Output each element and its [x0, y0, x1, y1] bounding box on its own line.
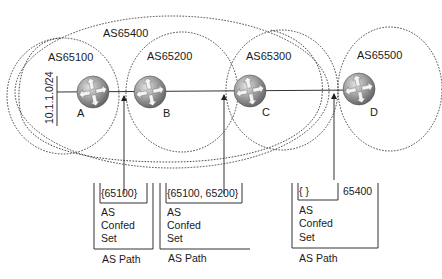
confed-label-3-line-2: Confed [299, 217, 333, 229]
confederation-label: AS65400 [103, 27, 148, 39]
network-label: 10.1.1.0/24 [43, 71, 55, 124]
router-label-b: B [163, 107, 170, 119]
confed-set-value-2: {65100, 65200} [167, 187, 239, 199]
confed-label-2-line-2: Confed [167, 219, 201, 231]
confed-set-value-3: { } [299, 185, 309, 197]
as65100-label: AS65100 [48, 51, 93, 63]
as-path-label-3: AS Path [299, 252, 338, 264]
router-icon-b[interactable] [134, 76, 166, 108]
as-path-box-1: {65100} AS Confed Set AS Path [94, 183, 153, 265]
router-icon-a[interactable] [77, 76, 109, 108]
as-path-label-1: AS Path [102, 253, 141, 265]
confed-label-3-line-3: Set [299, 231, 315, 243]
confed-label-2-line-3: Set [167, 232, 183, 244]
as-path-label-2: AS Path [168, 252, 207, 264]
as65500-label: AS65500 [357, 49, 402, 61]
router-label-a: A [77, 107, 85, 119]
as65300-label: AS65300 [246, 50, 291, 62]
confed-label-1-line-3: Set [101, 232, 117, 244]
as-sequence-value-3: 65400 [343, 185, 372, 197]
confed-set-value-1: {65100} [101, 187, 138, 199]
router-icon-d[interactable] [343, 73, 375, 105]
router-icon-c[interactable] [234, 75, 266, 107]
as-path-box-3: { } 65400 AS Confed Set AS Path [292, 183, 378, 264]
router-label-c: C [262, 106, 270, 118]
as65200-label: AS65200 [147, 50, 192, 62]
confed-label-1-line-2: Confed [101, 219, 135, 231]
router-label-d: D [370, 106, 378, 118]
confed-label-3-line-1: AS [299, 204, 313, 216]
as-path-box-2: {65100, 65200} AS Confed Set AS Path [160, 183, 250, 264]
confed-label-2-line-1: AS [167, 206, 181, 218]
confederation-diagram: AS65400 AS65100 AS65200 AS65300 AS65500 … [0, 0, 442, 279]
confed-label-1-line-1: AS [101, 206, 115, 218]
